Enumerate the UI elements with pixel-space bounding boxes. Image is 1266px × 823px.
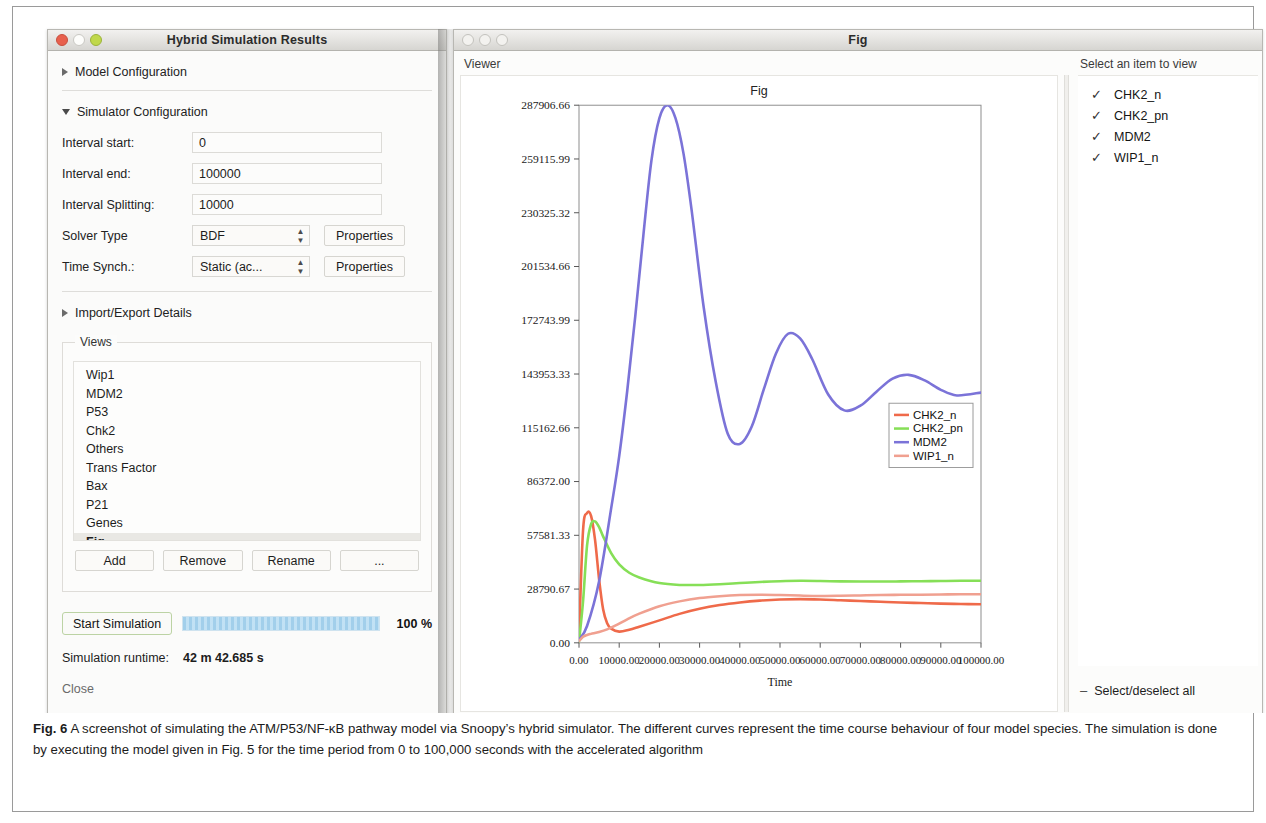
interval-splitting-input[interactable]: 10000 [192, 194, 382, 215]
add-view-button[interactable]: Add [75, 550, 154, 571]
simulator-configuration-label: Simulator Configuration [77, 105, 208, 119]
figure-caption: Fig. 6 A screenshot of simulating the AT… [33, 719, 1233, 760]
section-import-export-details[interactable]: Import/Export Details [62, 298, 432, 328]
y-axis-tick-label: 115162.66 [522, 422, 571, 434]
legend-label: CHK2_n [913, 409, 956, 421]
solver-properties-button[interactable]: Properties [324, 225, 405, 246]
chart-plot-svg: 0.0028790.6757581.3386372.00115162.66143… [461, 76, 1057, 711]
x-axis-tick-label: 60000.00 [800, 654, 842, 666]
views-list[interactable]: Wip1MDM2P53Chk2OthersTrans FactorBaxP21G… [73, 361, 421, 541]
select-deselect-all-label: Select/deselect all [1094, 684, 1195, 698]
chart-legend: CHK2_nCHK2_pnMDM2WIP1_n [889, 403, 973, 467]
hybrid-simulation-results-window: Hybrid Simulation Results Model Configur… [47, 29, 447, 713]
rename-view-button[interactable]: Rename [252, 550, 331, 571]
legend-label: MDM2 [913, 436, 947, 448]
select-deselect-all-row[interactable]: – Select/deselect all [1080, 683, 1195, 698]
import-export-label: Import/Export Details [75, 306, 192, 320]
y-axis-tick-label: 201534.66 [521, 261, 570, 273]
species-checkbox-row[interactable]: ✓WIP1_n [1078, 147, 1258, 168]
x-axis-tick-label: 90000.00 [920, 654, 962, 666]
species-label: MDM2 [1114, 130, 1151, 144]
chart-viewer-pane: Fig 0.0028790.6757581.3386372.00115162.6… [460, 75, 1058, 712]
x-axis-tick-label: 100000.00 [958, 654, 1005, 666]
simulation-runtime-row: Simulation runtime: 42 m 42.685 s [62, 651, 432, 665]
stepper-arrows-icon: ▲▼ [297, 260, 304, 275]
species-checkbox-row[interactable]: ✓CHK2_n [1078, 84, 1258, 105]
model-configuration-label: Model Configuration [75, 65, 187, 79]
panel-splitter[interactable] [1064, 75, 1069, 712]
field-interval-end: Interval end: 100000 [62, 158, 432, 189]
checkmark-icon[interactable]: ✓ [1078, 108, 1114, 123]
screenshot-area: Hybrid Simulation Results Model Configur… [33, 21, 1265, 713]
view-list-item[interactable]: Trans Factor [74, 459, 420, 478]
x-axis-tick-label: 0.00 [569, 654, 589, 666]
interval-end-input[interactable]: 100000 [192, 163, 382, 184]
field-interval-start: Interval start: 0 [62, 127, 432, 158]
figure-frame: Hybrid Simulation Results Model Configur… [12, 6, 1254, 812]
simulation-chart[interactable]: Fig 0.0028790.6757581.3386372.00115162.6… [461, 76, 1057, 711]
field-solver-type: Solver Type BDF ▲▼ Properties [62, 220, 432, 251]
view-list-item[interactable]: Fig [74, 533, 420, 542]
time-synch-label: Time Synch.: [62, 260, 192, 274]
checkmark-icon[interactable]: ✓ [1078, 87, 1114, 102]
interval-splitting-label: Interval Splitting: [62, 198, 192, 212]
y-axis-tick-label: 143953.33 [521, 368, 570, 380]
view-list-item[interactable]: Chk2 [74, 422, 420, 441]
sim-window-body: Model Configuration Simulator Configurat… [48, 51, 446, 713]
checkmark-icon[interactable]: ✓ [1078, 129, 1114, 144]
field-time-synch: Time Synch.: Static (ac... ▲▼ Properties [62, 251, 432, 282]
view-list-item[interactable]: MDM2 [74, 385, 420, 404]
dash-icon: – [1080, 683, 1087, 698]
solver-type-label: Solver Type [62, 229, 192, 243]
start-simulation-button[interactable]: Start Simulation [62, 612, 172, 635]
time-synch-properties-button[interactable]: Properties [324, 256, 405, 277]
select-item-pane: Select an item to view ✓CHK2_n✓CHK2_pn✓M… [1074, 51, 1258, 712]
time-synch-select[interactable]: Static (ac... ▲▼ [192, 256, 310, 277]
remove-view-button[interactable]: Remove [163, 550, 242, 571]
fig-viewer-window: Fig Viewer Fig 0.0028790.6757581.3386372… [453, 29, 1263, 713]
more-options-button[interactable]: ... [340, 550, 419, 571]
solver-type-select[interactable]: BDF ▲▼ [192, 225, 310, 246]
sim-window-title: Hybrid Simulation Results [48, 33, 446, 47]
species-label: WIP1_n [1114, 151, 1158, 165]
x-axis-tick-label: 50000.00 [759, 654, 801, 666]
fig-window-body: Viewer Fig 0.0028790.6757581.3386372.001… [454, 51, 1262, 713]
section-model-configuration[interactable]: Model Configuration [62, 57, 432, 87]
checkmark-icon[interactable]: ✓ [1078, 150, 1114, 165]
select-item-title: Select an item to view [1080, 57, 1197, 71]
chevron-right-icon [62, 309, 68, 317]
y-axis-tick-label: 230325.32 [521, 207, 570, 219]
y-axis-tick-label: 28790.67 [527, 583, 570, 595]
y-axis-tick-label: 287906.66 [521, 99, 570, 111]
view-list-item[interactable]: Genes [74, 514, 420, 533]
species-label: CHK2_n [1114, 88, 1161, 102]
fig-window-titlebar[interactable]: Fig [454, 30, 1262, 51]
view-list-item[interactable]: Bax [74, 477, 420, 496]
runtime-label: Simulation runtime: [62, 651, 169, 665]
x-axis-tick-label: 40000.00 [719, 654, 761, 666]
x-axis-tick-label: 20000.00 [639, 654, 681, 666]
interval-start-input[interactable]: 0 [192, 132, 382, 153]
divider [62, 291, 432, 292]
figure-caption-text: A screenshot of simulating the ATM/P53/N… [33, 721, 1217, 757]
simulation-progress-bar [182, 616, 380, 631]
sim-window-titlebar[interactable]: Hybrid Simulation Results [48, 30, 446, 51]
stepper-arrows-icon: ▲▼ [297, 229, 304, 244]
legend-label: CHK2_pn [913, 423, 963, 435]
view-list-item[interactable]: Others [74, 440, 420, 459]
species-checkbox-row[interactable]: ✓MDM2 [1078, 126, 1258, 147]
divider [62, 90, 432, 91]
x-axis-tick-label: 10000.00 [599, 654, 641, 666]
legend-label: WIP1_n [913, 450, 954, 462]
species-checkbox-row[interactable]: ✓CHK2_pn [1078, 105, 1258, 126]
chevron-right-icon [62, 68, 68, 76]
x-axis-tick-label: 30000.00 [679, 654, 721, 666]
close-button[interactable]: Close [62, 682, 432, 696]
view-list-item[interactable]: Wip1 [74, 366, 420, 385]
fig-window-title: Fig [454, 33, 1262, 47]
view-list-item[interactable]: P53 [74, 403, 420, 422]
section-simulator-configuration[interactable]: Simulator Configuration [62, 97, 432, 127]
view-list-item[interactable]: P21 [74, 496, 420, 515]
x-axis-tick-label: 70000.00 [840, 654, 882, 666]
species-checklist[interactable]: ✓CHK2_n✓CHK2_pn✓MDM2✓WIP1_n [1078, 75, 1258, 666]
